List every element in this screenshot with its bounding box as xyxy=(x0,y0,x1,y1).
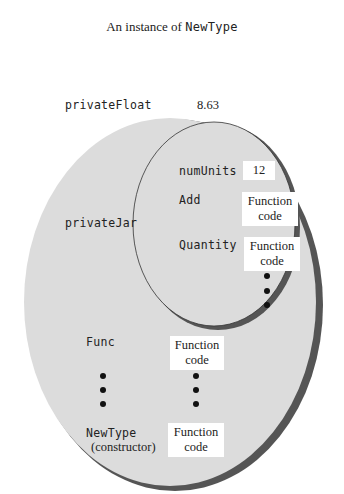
ellipsis-dot xyxy=(100,401,106,407)
ellipsis-dot xyxy=(193,401,199,407)
ellipsis-dot xyxy=(193,373,199,379)
ellipsis-dot xyxy=(100,373,106,379)
member-privateJar: privateJar xyxy=(65,216,137,230)
value-Quantity: Functioncode xyxy=(244,237,300,271)
value-privateFloat: 8.63 xyxy=(188,96,228,115)
value-numUnits: 12 xyxy=(243,161,275,180)
member-NewType: NewType xyxy=(86,426,137,440)
member-Add: Add xyxy=(179,193,201,207)
ellipsis-dot xyxy=(264,288,270,294)
member-NewType-sub: (constructor) xyxy=(91,440,156,455)
value-Add: Functioncode xyxy=(242,192,298,226)
ellipsis-dot xyxy=(264,302,270,308)
member-numUnits: numUnits xyxy=(179,164,237,178)
ellipsis-dot xyxy=(193,387,199,393)
member-privateFloat: privateFloat xyxy=(65,98,152,112)
ellipsis-dot xyxy=(264,273,270,279)
value-Func: Functioncode xyxy=(170,336,224,370)
ellipsis-dot xyxy=(100,387,106,393)
member-Func: Func xyxy=(86,335,115,349)
member-Quantity: Quantity xyxy=(179,238,237,252)
value-NewType: Functioncode xyxy=(168,423,224,457)
